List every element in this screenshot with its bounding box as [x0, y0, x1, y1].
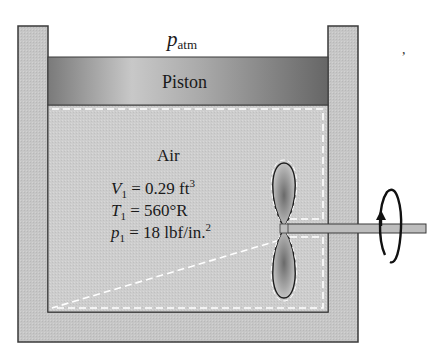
air-label: Air — [157, 146, 180, 165]
atmospheric-pressure-label: patm — [165, 27, 197, 52]
stray-mark: , — [402, 42, 406, 57]
state-pressure: p1 = 18 lbf/in.2 — [110, 221, 211, 244]
piston-cylinder-diagram: patm , Piston Air V1 = 0.29 ft3 T1 = 560… — [0, 0, 444, 357]
paddle-wheel-shaft — [285, 224, 426, 233]
piston-label: Piston — [162, 72, 207, 92]
